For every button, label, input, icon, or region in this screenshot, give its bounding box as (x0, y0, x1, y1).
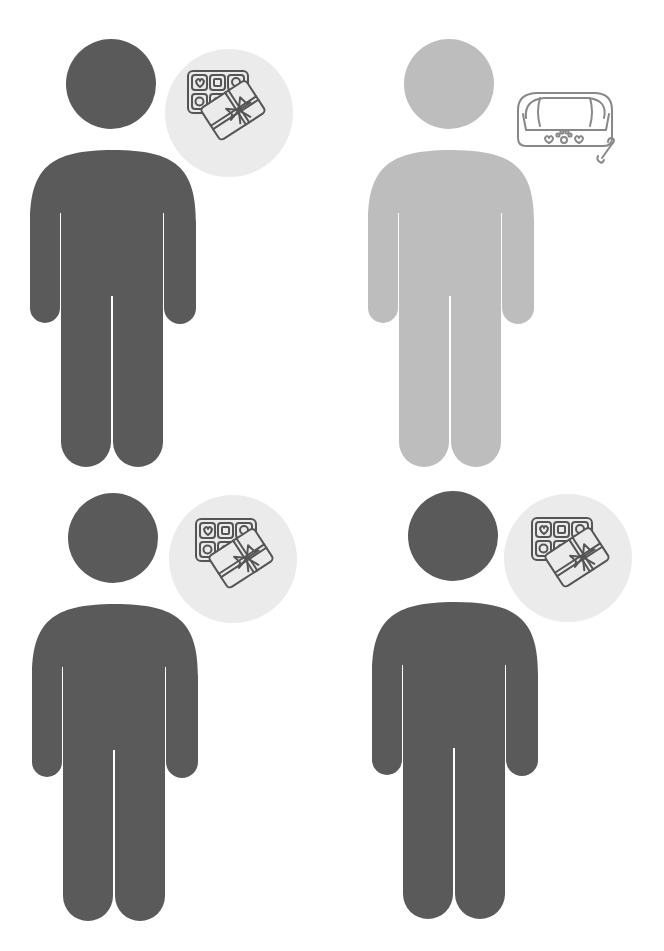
person-figure-top-right (368, 38, 664, 468)
person-icon (368, 39, 534, 467)
pet-bed-bone-icon (518, 93, 614, 163)
person-figure-bottom-left (32, 492, 332, 922)
person-figure-top-left (30, 38, 330, 468)
person-figure-bottom-right (372, 490, 664, 920)
